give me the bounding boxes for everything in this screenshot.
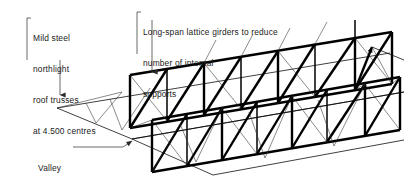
annotation-line: Valley <box>38 163 61 173</box>
annotation-line: northlight <box>33 64 96 74</box>
annotation-lattice-girders: Long-span lattice girders to reduce numb… <box>143 6 278 120</box>
annotation-line: supports <box>143 89 278 99</box>
annotation-mild-steel-trusses: Mild steel northlight roof trusses at 4.… <box>33 12 96 158</box>
annotation-line: number of internal <box>143 58 278 68</box>
leader-trusses-bracket <box>27 18 31 60</box>
annotation-line: at 4.500 centres <box>33 126 96 136</box>
annotation-valley: Valley <box>38 142 61 183</box>
annotation-line: roof trusses <box>33 95 96 105</box>
annotation-line: Long-span lattice girders to reduce <box>143 27 278 37</box>
leader-girders-bracket <box>137 12 141 54</box>
annotation-line: Mild steel <box>33 33 96 43</box>
diagram-canvas: Mild steel northlight roof trusses at 4.… <box>0 0 408 183</box>
